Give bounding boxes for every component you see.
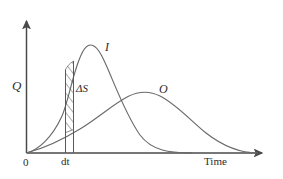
figure-canvas <box>0 0 283 179</box>
outflow-curve <box>27 92 258 153</box>
inflow-curve <box>27 45 192 153</box>
y-axis-label: Q <box>12 79 21 92</box>
delta-s-label: ΔS <box>76 83 88 94</box>
x-axis-label: Time <box>204 156 227 167</box>
dt-interval-label: dt <box>61 156 70 167</box>
hydrograph-figure: Q Time 0 I O ΔS dt <box>0 0 283 179</box>
delta-s-hatched-region <box>60 55 82 140</box>
inflow-curve-label: I <box>105 41 109 53</box>
outflow-curve-label: O <box>159 83 168 95</box>
origin-label: 0 <box>23 157 29 168</box>
